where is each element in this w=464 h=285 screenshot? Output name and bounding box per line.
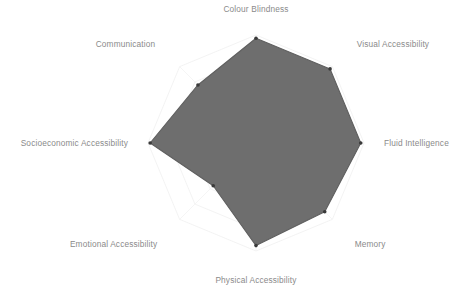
axis-label-fluid-intelligence: Fluid Intelligence bbox=[384, 139, 449, 147]
axis-label-memory: Memory bbox=[355, 240, 386, 248]
data-point-marker bbox=[211, 184, 215, 188]
data-point-marker bbox=[328, 67, 332, 71]
axis-label-visual-accessibility: Visual Accessibility bbox=[357, 40, 429, 48]
axis-label-colour-blindness: Colour Blindness bbox=[223, 5, 288, 13]
data-point-marker bbox=[196, 83, 200, 87]
axis-label-socioeconomic-accessibility: Socioeconomic Accessibility bbox=[21, 139, 128, 147]
data-point-marker bbox=[254, 36, 258, 40]
data-point-marker bbox=[359, 141, 363, 145]
axis-label-emotional-accessibility: Emotional Accessibility bbox=[70, 240, 157, 248]
axis-label-physical-accessibility: Physical Accessibility bbox=[215, 276, 296, 284]
data-point-marker bbox=[323, 210, 327, 214]
data-point-marker bbox=[148, 141, 152, 145]
data-point-marker bbox=[254, 244, 258, 248]
axis-label-communication: Communication bbox=[96, 40, 156, 48]
